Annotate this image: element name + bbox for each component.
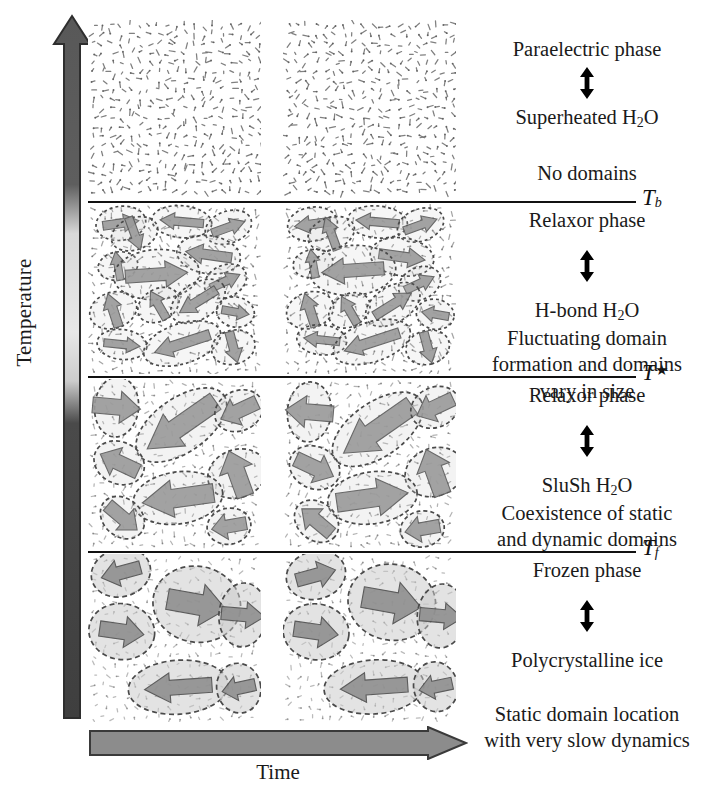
description-line-relaxor-lower-0: Coexistence of static xyxy=(462,500,712,526)
analogue-post-relaxor-lower: O xyxy=(618,474,633,496)
analogue-paraelectric: Superheated H2O xyxy=(462,104,712,132)
phase-name-relaxor-lower: Relaxor phase xyxy=(462,382,712,408)
text-block-relaxor-lower: Relaxor phase SluSh H2O Coexistence of s… xyxy=(462,382,712,553)
analogue-pre-paraelectric: Superheated H xyxy=(515,106,636,128)
panel-row-paraelectric xyxy=(88,20,456,198)
boundary-line-Tb xyxy=(88,201,636,203)
text-block-relaxor-upper: Relaxor phase H-bond H2O Fluctuating dom… xyxy=(462,207,712,404)
analogue-sub-relaxor-lower: 2 xyxy=(611,483,618,498)
analogue-sub-paraelectric: 2 xyxy=(637,115,644,130)
panel-frozen-left xyxy=(88,554,261,722)
panel-frozen-right xyxy=(283,554,456,722)
diagram-root: Temperature Time xyxy=(0,0,712,807)
double-arrow-icon-relaxor-lower xyxy=(577,424,597,458)
description-line-relaxor-lower-1: and dynamic domains xyxy=(462,526,712,552)
description-line-relaxor-upper-0: Fluctuating domain xyxy=(462,325,712,351)
phase-name-frozen: Frozen phase xyxy=(462,557,712,583)
analogue-pre-frozen: Polycrystalline ice xyxy=(511,649,663,671)
panel-row-relaxor-lower xyxy=(88,379,456,549)
double-arrow-icon-frozen xyxy=(577,599,597,633)
panel-relaxor-lower-right xyxy=(283,379,456,549)
temperature-axis-label: Temperature xyxy=(12,203,37,423)
panel-relaxor-lower-left xyxy=(88,379,261,549)
panel-row-relaxor-upper xyxy=(88,204,456,374)
analogue-relaxor-lower: SluSh H2O xyxy=(462,472,712,500)
analogue-post-paraelectric: O xyxy=(644,106,659,128)
panel-relaxor-upper-right xyxy=(283,204,456,374)
temperature-axis-arrow xyxy=(52,14,92,720)
panel-relaxor-upper-left xyxy=(88,204,261,374)
text-block-paraelectric: Paraelectric phase Superheated H2O No do… xyxy=(462,36,712,186)
panel-paraelectric-left xyxy=(88,20,261,198)
double-arrow-icon-relaxor-upper xyxy=(577,249,597,283)
description-line-frozen-0: Static domain location xyxy=(462,701,712,727)
time-axis-label: Time xyxy=(88,760,468,785)
micrograph-panels xyxy=(88,20,456,722)
analogue-post-relaxor-upper: O xyxy=(624,299,639,321)
phase-name-paraelectric: Paraelectric phase xyxy=(462,36,712,62)
analogue-pre-relaxor-lower: SluSh H xyxy=(542,474,611,496)
panel-paraelectric-right xyxy=(283,20,456,198)
panel-row-frozen xyxy=(88,554,456,722)
description-line-relaxor-upper-1: formation and domains xyxy=(462,351,712,377)
phase-name-relaxor-upper: Relaxor phase xyxy=(462,207,712,233)
analogue-frozen: Polycrystalline ice xyxy=(462,647,712,675)
time-axis-arrow xyxy=(88,726,468,760)
text-block-frozen: Frozen phase Polycrystalline ice Static … xyxy=(462,557,712,754)
analogue-pre-relaxor-upper: H-bond H xyxy=(535,299,618,321)
description-line-paraelectric-0: No domains xyxy=(462,160,712,186)
double-arrow-icon-paraelectric xyxy=(577,66,597,100)
analogue-relaxor-upper: H-bond H2O xyxy=(462,297,712,325)
description-line-frozen-1: with very slow dynamics xyxy=(462,727,712,753)
